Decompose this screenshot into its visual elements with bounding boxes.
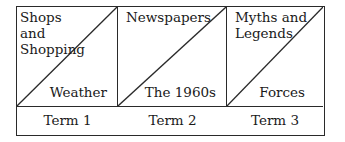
topic-cell-term-2: Newspapers The 1960s: [118, 7, 227, 107]
topic-top-left: Myths and Legends: [235, 9, 307, 41]
term-topics-table: Shops and Shopping Weather Newspapers Th…: [16, 6, 325, 136]
topic-cell-term-1: Shops and Shopping Weather: [17, 7, 118, 107]
topic-line: Newspapers: [126, 9, 211, 25]
topic-top-left: Newspapers: [126, 9, 211, 25]
topic-cell-term-3: Myths and Legends Forces: [227, 7, 323, 107]
term-label: Term 1: [17, 112, 118, 128]
term-label-cell: Term 3: [227, 107, 323, 135]
term-label-cell: Term 1: [17, 107, 118, 135]
term-label: Term 2: [118, 112, 227, 128]
topic-top-left: Shops and Shopping: [20, 9, 85, 57]
topic-line: Shopping: [20, 41, 85, 57]
topic-line: Legends: [235, 25, 307, 41]
topic-line: and: [20, 25, 85, 41]
topic-bottom-right: Forces: [259, 84, 305, 100]
term-label-cell: Term 2: [118, 107, 227, 135]
topic-line: Shops: [20, 9, 85, 25]
topic-bottom-right: The 1960s: [145, 84, 216, 100]
topic-bottom-right: Weather: [50, 84, 107, 100]
topic-line: Myths and: [235, 9, 307, 25]
term-label: Term 3: [227, 112, 323, 128]
